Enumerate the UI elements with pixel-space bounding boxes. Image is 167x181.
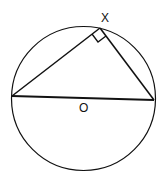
vertex-label-x: X: [101, 11, 109, 25]
right-angle-marker: [92, 34, 106, 42]
geometry-diagram: X O: [0, 0, 167, 181]
chord-left-to-x: [12, 28, 100, 96]
diameter: [12, 96, 154, 100]
center-label-o: O: [79, 101, 88, 115]
chord-x-to-right: [100, 28, 154, 100]
